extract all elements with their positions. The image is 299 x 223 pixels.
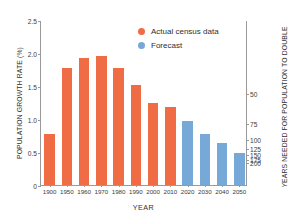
x-axis-tick-label: 2040: [215, 188, 229, 195]
y-axis-left-tick-label: 0.5: [28, 150, 37, 157]
x-axis-tick-mark: [222, 185, 223, 187]
bar-1960: [79, 58, 89, 185]
y-axis-right-tick-mark: [246, 140, 249, 141]
y-axis-right-tick-mark: [246, 94, 249, 95]
x-axis-tick-mark: [101, 185, 102, 187]
x-axis-tick-mark: [136, 185, 137, 187]
y-axis-left-title: POPULATION GROWTH RATE (%): [16, 20, 23, 186]
legend-label-forecast: Forecast: [151, 41, 182, 50]
x-axis-tick-mark: [153, 185, 154, 187]
x-axis-tick-label: 1950: [60, 188, 74, 195]
x-axis-tick-label: 1960: [77, 188, 91, 195]
x-axis-tick-label: 2020: [181, 188, 195, 195]
y-axis-left-tick-label: 1.5: [28, 84, 37, 91]
x-axis-tick-label: 1990: [129, 188, 143, 195]
x-axis-tick-label: 2030: [198, 188, 212, 195]
chart-figure: POPULATION GROWTH RATE (%) YEARS NEEDED …: [0, 0, 299, 223]
x-axis-tick-label: 2010: [163, 188, 177, 195]
x-axis-tick-mark: [50, 185, 51, 187]
legend-item-forecast: Forecast: [138, 38, 219, 52]
bar-2000: [148, 103, 158, 186]
y-axis-right-tick-mark: [246, 155, 249, 156]
x-axis-title: YEAR: [40, 203, 247, 212]
y-axis-left-tick-label: 1.0: [28, 117, 37, 124]
bar-1900: [44, 134, 54, 185]
bar-1970: [96, 56, 106, 185]
x-axis-tick-mark: [188, 185, 189, 187]
legend-swatch-icon-forecast: [138, 42, 145, 49]
y-axis-right-tick-mark: [246, 163, 249, 164]
bar-2030: [200, 134, 210, 185]
bar-2040: [217, 143, 227, 185]
legend-label-actual: Actual census data: [151, 27, 219, 36]
x-axis-tick-label: 1980: [112, 188, 126, 195]
y-axis-right-tick-label: 75: [250, 121, 257, 128]
bar-1990: [131, 85, 141, 185]
y-axis-right-tick-label: 200: [250, 159, 261, 166]
x-axis-tick-mark: [205, 185, 206, 187]
bar-1980: [113, 68, 123, 185]
y-axis-right-tick-mark: [246, 124, 249, 125]
y-axis-left-tick-label: 2.0: [28, 51, 37, 58]
y-axis-left-tick-mark: [38, 186, 41, 187]
x-axis-tick-mark: [119, 185, 120, 187]
y-axis-left-tick-label: 2.5: [28, 18, 37, 25]
x-axis-tick-mark: [239, 185, 240, 187]
x-axis-tick-label: 1970: [94, 188, 108, 195]
y-axis-right-tick-label: 100: [250, 136, 261, 143]
bar-2050: [234, 153, 244, 185]
y-axis-right-tick-label: 50: [250, 90, 257, 97]
x-axis-tick-label: 2000: [146, 188, 160, 195]
x-axis-tick-label: 1900: [43, 188, 57, 195]
x-axis-tick-mark: [84, 185, 85, 187]
y-axis-right-tick-mark: [246, 160, 249, 161]
chart-legend: Actual census data Forecast: [138, 24, 219, 52]
y-axis-right-title: YEARS NEEDED FOR POPULATION TO DOUBLE: [281, 17, 288, 197]
x-axis-tick-mark: [170, 185, 171, 187]
x-axis-tick-mark: [67, 185, 68, 187]
legend-swatch-icon-actual: [138, 28, 145, 35]
legend-item-actual: Actual census data: [138, 24, 219, 38]
bar-2010: [165, 107, 175, 185]
y-axis-right-tick-mark: [246, 149, 249, 150]
y-axis-left-tick-label: 0: [33, 183, 37, 190]
bar-2020: [182, 121, 192, 185]
bar-1950: [62, 68, 72, 185]
x-axis-tick-label: 2050: [232, 188, 246, 195]
